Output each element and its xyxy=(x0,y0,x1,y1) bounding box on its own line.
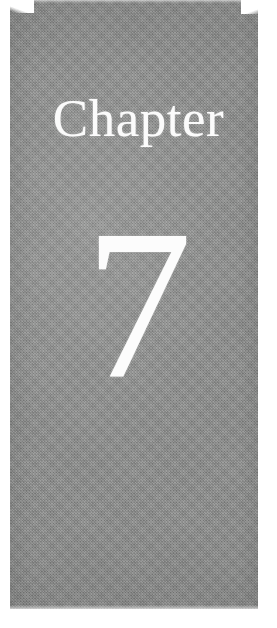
chapter-number: 7 xyxy=(0,196,277,411)
chapter-heading: Chapter xyxy=(0,92,277,145)
chapter-divider-page: Chapter 7 xyxy=(0,0,277,628)
panel-top-edge-fade xyxy=(10,0,258,3)
panel-bottom-edge-fade xyxy=(10,605,258,609)
